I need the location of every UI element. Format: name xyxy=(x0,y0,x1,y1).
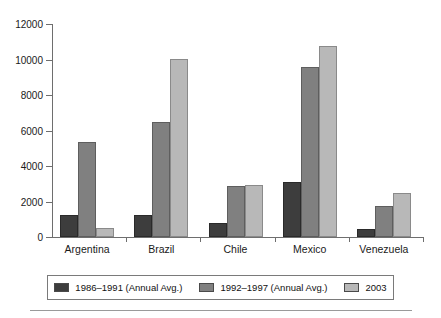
bar-group xyxy=(134,24,188,237)
bar xyxy=(209,223,227,237)
x-axis-category-label: Argentina xyxy=(65,243,110,255)
y-axis-tick xyxy=(46,60,52,61)
y-axis-tick-label: 10000 xyxy=(15,54,43,65)
x-axis-tick xyxy=(126,237,127,242)
bar xyxy=(78,142,96,237)
x-axis-tick xyxy=(200,237,201,242)
legend-label: 1986–1991 (Annual Avg.) xyxy=(75,282,182,293)
y-axis-tick xyxy=(46,202,52,203)
y-axis-tick xyxy=(46,166,52,167)
bar xyxy=(170,59,188,237)
legend-label: 1992–1997 (Annual Avg.) xyxy=(220,282,327,293)
y-axis-tick-label: 6000 xyxy=(21,125,43,136)
legend-swatch xyxy=(54,283,69,292)
bar xyxy=(152,122,170,237)
bar xyxy=(283,182,301,237)
bar xyxy=(375,206,393,237)
x-axis-line xyxy=(52,237,424,238)
x-axis-category-label: Venezuela xyxy=(359,243,408,255)
y-axis-tick-label: 2000 xyxy=(21,196,43,207)
legend-item[interactable]: 2003 xyxy=(344,282,386,293)
x-axis-tick xyxy=(423,237,424,242)
bar-group xyxy=(60,24,114,237)
legend-label: 2003 xyxy=(365,282,386,293)
x-axis-tick xyxy=(275,237,276,242)
bar xyxy=(60,215,78,237)
y-axis-tick-label: 4000 xyxy=(21,161,43,172)
y-axis-tick-label: 8000 xyxy=(21,90,43,101)
bar xyxy=(301,67,319,237)
bar xyxy=(134,215,152,237)
legend-swatch xyxy=(199,283,214,292)
bar xyxy=(96,228,114,237)
bar xyxy=(393,193,411,237)
y-axis-tick xyxy=(46,24,52,25)
x-axis-category-label: Chile xyxy=(224,243,248,255)
y-axis-tick xyxy=(46,131,52,132)
bar-chart-figure: 020004000600080001000012000 ArgentinaBra… xyxy=(0,0,441,318)
bar-group xyxy=(209,24,263,237)
bar xyxy=(245,185,263,237)
y-axis-tick-label: 0 xyxy=(37,232,43,243)
bar xyxy=(357,229,375,237)
plot-area: 020004000600080001000012000 xyxy=(52,24,423,237)
bar-group xyxy=(357,24,411,237)
bottom-rule xyxy=(30,310,412,311)
bar xyxy=(319,46,337,237)
bar-group xyxy=(283,24,337,237)
legend-item[interactable]: 1986–1991 (Annual Avg.) xyxy=(54,282,182,293)
legend-swatch xyxy=(344,283,359,292)
bar xyxy=(227,186,245,237)
legend-item[interactable]: 1992–1997 (Annual Avg.) xyxy=(199,282,327,293)
chart-legend: 1986–1991 (Annual Avg.)1992–1997 (Annual… xyxy=(47,275,394,300)
y-axis-tick-label: 12000 xyxy=(15,19,43,30)
x-axis-tick xyxy=(349,237,350,242)
y-axis-tick xyxy=(46,95,52,96)
x-axis-category-label: Brazil xyxy=(148,243,174,255)
x-axis-category-label: Mexico xyxy=(293,243,326,255)
y-axis-tick xyxy=(46,237,52,238)
